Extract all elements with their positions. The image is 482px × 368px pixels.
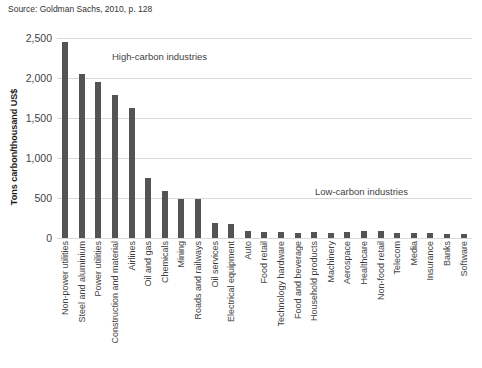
y-tick-label: 2,500 [0, 32, 52, 45]
x-tick-label: Auto [243, 241, 253, 260]
y-tick-label: 0 [0, 232, 52, 245]
x-label-slot: Auto [240, 241, 257, 368]
x-label-slot: Food and beverage [289, 241, 306, 368]
bar [178, 199, 184, 238]
x-label-slot: Roads and railways [190, 241, 207, 368]
x-tick-label: Non-food retail [376, 241, 386, 300]
x-label-slot: Airlines [123, 241, 140, 368]
high-carbon-annotation: High-carbon industries [112, 51, 207, 62]
x-label-slot: Mining [173, 241, 190, 368]
x-tick-label: Electrical equipment [226, 241, 236, 322]
bar [361, 231, 367, 238]
bar-slot [173, 38, 190, 238]
x-label-slot: Software [455, 241, 472, 368]
bar [195, 199, 201, 238]
bar [212, 223, 218, 238]
x-label-slot: Power utilities [90, 241, 107, 368]
x-tick-label: Chemicals [160, 241, 170, 283]
x-tick-label: Media [409, 241, 419, 266]
source-note: Source: Goldman Sachs, 2010, p. 128 [8, 4, 152, 14]
bar-slot [439, 38, 456, 238]
x-tick-label: Software [459, 241, 469, 277]
x-tick-label: Technology hardware [276, 241, 286, 327]
bar-series [57, 38, 472, 238]
x-label-slot: Telecom [389, 241, 406, 368]
bar-slot [90, 38, 107, 238]
x-tick-label: Oil services [210, 241, 220, 288]
x-tick-label: Steel and aluminium [77, 241, 87, 323]
y-tick-label: 1,500 [0, 112, 52, 125]
bar [95, 82, 101, 238]
x-label-slot: Oil and gas [140, 241, 157, 368]
x-label-slot: Machinery [323, 241, 340, 368]
bar [112, 95, 118, 238]
bar-slot [273, 38, 290, 238]
x-label-slot: Insurance [422, 241, 439, 368]
bar-slot [339, 38, 356, 238]
bar [427, 233, 433, 238]
x-label-slot: Media [405, 241, 422, 368]
x-tick-label: Food and beverage [293, 241, 303, 319]
bar-slot [123, 38, 140, 238]
bar-slot [422, 38, 439, 238]
bar [245, 231, 251, 238]
bar [261, 232, 267, 238]
x-tick-label: Food retail [259, 241, 269, 284]
plot-area: High-carbon industries Low-carbon indust… [57, 38, 472, 238]
x-label-slot: Construction and material [107, 241, 124, 368]
bar-slot [405, 38, 422, 238]
x-tick-label: Insurance [425, 241, 435, 281]
bar-slot [389, 38, 406, 238]
x-label-slot: Food retail [256, 241, 273, 368]
bar-slot [240, 38, 257, 238]
bar-slot [190, 38, 207, 238]
x-axis-labels: Non-power utilitiesSteel and aluminiumPo… [57, 241, 472, 368]
x-tick-label: Aerospace [342, 241, 352, 284]
bar [328, 233, 334, 238]
bar-slot [289, 38, 306, 238]
bar [129, 108, 135, 238]
x-tick-label: Power utilities [93, 241, 103, 297]
bar [344, 232, 350, 238]
bar [79, 74, 85, 238]
bar [461, 234, 467, 238]
carbon-intensity-chart: Source: Goldman Sachs, 2010, p. 128 Tons… [0, 0, 482, 368]
bar [394, 233, 400, 238]
bar [162, 191, 168, 238]
bar-slot [455, 38, 472, 238]
x-label-slot: Non-food retail [372, 241, 389, 368]
bar-slot [206, 38, 223, 238]
x-tick-label: Oil and gas [143, 241, 153, 287]
gridline [57, 238, 472, 239]
bar [444, 234, 450, 238]
y-tick-label: 2,000 [0, 72, 52, 85]
bar-slot [140, 38, 157, 238]
bar [411, 233, 417, 238]
x-label-slot: Steel and aluminium [74, 241, 91, 368]
bar [295, 233, 301, 238]
x-tick-label: Airlines [127, 241, 137, 271]
y-axis-ticks: 05001,0001,5002,0002,500 [0, 38, 52, 238]
bar-slot [356, 38, 373, 238]
bar-slot [107, 38, 124, 238]
x-tick-label: Telecom [392, 241, 402, 275]
low-carbon-annotation: Low-carbon industries [315, 186, 408, 197]
x-tick-label: Banks [442, 241, 452, 266]
x-tick-label: Construction and material [110, 241, 120, 344]
bar-slot [223, 38, 240, 238]
bar-slot [323, 38, 340, 238]
x-tick-label: Healthcare [359, 241, 369, 285]
bar [278, 232, 284, 238]
x-tick-label: Machinery [326, 241, 336, 283]
bar-slot [306, 38, 323, 238]
bar [145, 178, 151, 238]
x-label-slot: Non-power utilities [57, 241, 74, 368]
x-label-slot: Oil services [206, 241, 223, 368]
x-label-slot: Healthcare [356, 241, 373, 368]
bar [311, 232, 317, 238]
y-tick-label: 500 [0, 192, 52, 205]
bar-slot [57, 38, 74, 238]
x-tick-label: Non-power utilities [60, 241, 70, 315]
bar [62, 42, 68, 238]
x-label-slot: Aerospace [339, 241, 356, 368]
